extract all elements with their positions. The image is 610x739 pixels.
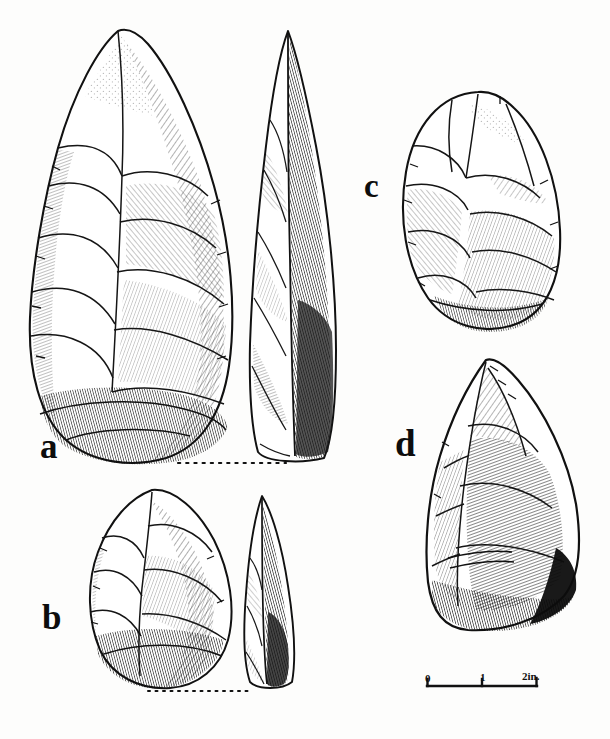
- figure-label-d: d: [395, 425, 416, 462]
- figure-c-face-view: [403, 92, 560, 332]
- figure-a-profile-view: [250, 31, 336, 461]
- figure-b-profile-view: [244, 496, 294, 688]
- artifact-drawings: [0, 0, 610, 739]
- scale-tick-1: 1: [480, 672, 486, 683]
- figure-label-a: a: [40, 429, 58, 464]
- illustration-plate: a b c d 0 1 2in.: [0, 0, 610, 739]
- figure-b-face-view: [90, 490, 232, 689]
- figure-a-face-view: [30, 30, 233, 464]
- figure-label-b: b: [42, 600, 61, 635]
- scale-tick-0: 0: [425, 673, 431, 684]
- figure-d-face-view: [427, 359, 580, 631]
- scale-bar: 0 1 2in.: [424, 668, 546, 698]
- scale-tick-2: 2in.: [522, 671, 539, 682]
- figure-label-c: c: [364, 170, 379, 203]
